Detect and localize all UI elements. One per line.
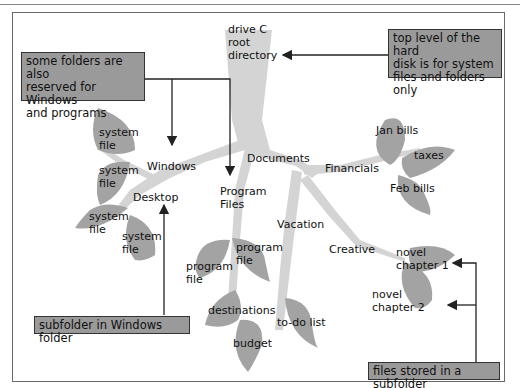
callout-subfolder: subfolder in Windows folder bbox=[34, 316, 190, 334]
file-line2: file bbox=[186, 273, 233, 286]
folder-documents: Documents bbox=[247, 152, 310, 165]
trunk-branches bbox=[100, 30, 420, 330]
file-line1: novel bbox=[396, 246, 449, 259]
callout-line3: and programs bbox=[26, 107, 140, 120]
folder-windows: Windows bbox=[147, 160, 196, 173]
file-program-2: program file bbox=[186, 260, 233, 286]
file-novel-chapter-1: novel chapter 1 bbox=[396, 246, 449, 272]
folder-creative: Creative bbox=[329, 243, 375, 256]
callout-reserved-folders: some folders are also reserved for Windo… bbox=[21, 52, 145, 101]
file-destinations: destinations bbox=[208, 304, 275, 317]
file-line2: chapter 1 bbox=[396, 259, 449, 272]
file-line2: file bbox=[122, 243, 162, 256]
file-line1: system bbox=[89, 210, 129, 223]
root-line2: root bbox=[228, 36, 277, 49]
file-line1: program bbox=[186, 260, 233, 273]
program-files-line2: Files bbox=[220, 198, 266, 211]
folder-program-files: Program Files bbox=[220, 185, 266, 211]
program-files-line1: Program bbox=[220, 185, 266, 198]
callout-files-stored: files stored in a subfolder bbox=[368, 362, 500, 380]
file-feb-bills: Feb bills bbox=[390, 182, 435, 195]
file-budget: budget bbox=[233, 337, 272, 350]
folder-vacation: Vacation bbox=[277, 218, 324, 231]
file-line1: program bbox=[236, 241, 283, 254]
file-novel-chapter-2: novel chapter 2 bbox=[372, 288, 425, 314]
file-line1: system bbox=[122, 230, 162, 243]
root-label: drive C root directory bbox=[228, 23, 277, 62]
file-program-1: program file bbox=[236, 241, 283, 267]
folder-desktop: Desktop bbox=[133, 191, 178, 204]
root-line1: drive C bbox=[228, 23, 277, 36]
callout-top-level: top level of the hard disk is for system… bbox=[388, 29, 502, 78]
callout-line2: reserved for Windows bbox=[26, 81, 140, 107]
callout-line1: some folders are also bbox=[26, 55, 140, 81]
file-system-2: system file bbox=[99, 164, 139, 190]
file-line2: chapter 2 bbox=[372, 301, 425, 314]
file-line2: file bbox=[99, 139, 139, 152]
file-line1: system bbox=[99, 126, 139, 139]
root-line3: directory bbox=[228, 49, 277, 62]
file-taxes: taxes bbox=[414, 149, 444, 162]
file-todo-list: to-do list bbox=[277, 316, 326, 329]
folder-financials: Financials bbox=[325, 162, 379, 175]
file-line2: file bbox=[99, 177, 139, 190]
file-line1: system bbox=[99, 164, 139, 177]
file-line1: novel bbox=[372, 288, 425, 301]
file-system-1: system file bbox=[99, 126, 139, 152]
callout-line1: top level of the hard bbox=[393, 32, 497, 58]
file-line2: file bbox=[236, 254, 283, 267]
file-jan-bills: Jan bills bbox=[376, 124, 418, 137]
callout-line3: files and folders only bbox=[393, 71, 497, 97]
file-system-4: system file bbox=[122, 230, 162, 256]
